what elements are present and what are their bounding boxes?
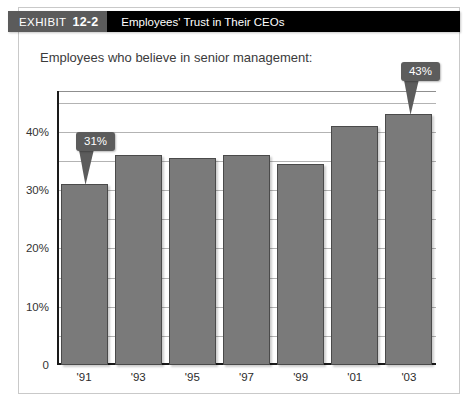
exhibit-tag-number: 12-2 [73, 15, 99, 29]
exhibit-tag: EXHIBIT 12-2 [8, 11, 107, 32]
exhibit-title: Employees' Trust in Their CEOs [107, 11, 460, 32]
chart-subtitle: Employees who believe in senior manageme… [40, 50, 312, 65]
exhibit-header: EXHIBIT 12-2 Employees' Trust in Their C… [8, 11, 460, 32]
exhibit-tag-word: EXHIBIT [19, 16, 67, 28]
exhibit-frame [18, 7, 460, 394]
